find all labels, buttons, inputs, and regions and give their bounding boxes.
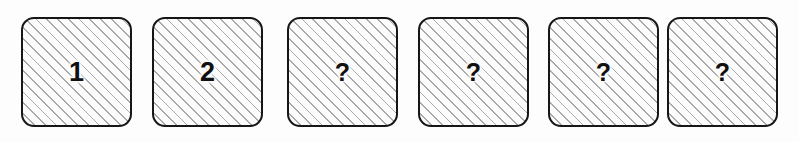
- sequence-tile-1[interactable]: 1: [21, 17, 132, 127]
- tile-label: ?: [596, 60, 611, 85]
- sequence-tile-strip: 1 2 ? ? ? ?: [0, 0, 799, 142]
- tile-label: ?: [335, 60, 350, 85]
- tile-label: 1: [69, 59, 84, 86]
- tile-label: ?: [715, 60, 730, 85]
- tile-label: ?: [466, 60, 481, 85]
- tile-label: 2: [200, 59, 215, 86]
- sequence-tile-4[interactable]: ?: [418, 17, 529, 127]
- sequence-tile-3[interactable]: ?: [287, 17, 398, 127]
- sequence-tile-5[interactable]: ?: [548, 17, 659, 127]
- sequence-tile-6[interactable]: ?: [667, 17, 778, 127]
- sequence-tile-2[interactable]: 2: [152, 17, 263, 127]
